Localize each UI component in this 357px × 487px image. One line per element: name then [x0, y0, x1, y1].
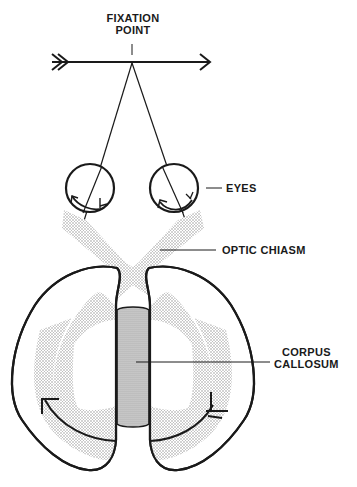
- left-eye: [66, 164, 114, 213]
- eyes-label: EYES: [226, 182, 257, 194]
- corpus-label-line1: CORPUS: [274, 346, 339, 358]
- corpus-label-line2: CALLOSUM: [274, 358, 339, 370]
- corpus-callosum-label: CORPUS CALLOSUM: [274, 346, 339, 370]
- fixation-label-line2: POINT: [104, 24, 162, 36]
- fixation-point-label: FIXATION POINT: [104, 12, 162, 36]
- fixation-label-line1: FIXATION: [104, 12, 162, 24]
- optic-chiasm-label: OPTIC CHIASM: [222, 244, 306, 256]
- corpus-callosum: [117, 307, 149, 427]
- right-eye: [150, 164, 198, 213]
